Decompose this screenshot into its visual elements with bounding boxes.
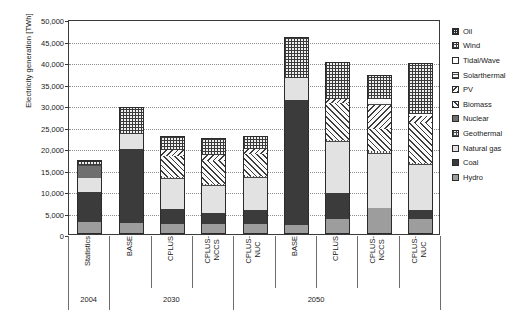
legend-label: Solarthermal	[463, 71, 506, 80]
group-separator	[68, 288, 69, 310]
y-tick-label: 25,000	[41, 124, 64, 133]
legend-label: Natural gas	[463, 144, 501, 153]
legend-item-solarthermal[interactable]: Solarthermal	[452, 68, 526, 83]
category-label: CPLUS	[316, 236, 357, 288]
bar-stack[interactable]	[77, 160, 102, 234]
bar-stack[interactable]	[284, 37, 309, 234]
bar-segment-natgas	[408, 165, 433, 210]
category-label: Statistics	[68, 236, 109, 288]
category-label-text: BASE	[291, 236, 300, 256]
legend-label: Coal	[463, 158, 478, 167]
legend-swatch-nuclear-icon	[452, 115, 459, 122]
bar-segment-coal	[77, 192, 102, 222]
category-label: CPLUS- NUC	[399, 236, 440, 288]
bar-segment-natgas	[325, 142, 350, 193]
legend-label: Tidal/Wave	[463, 56, 500, 65]
bar-segment-hydro	[367, 208, 392, 234]
legend: OilWindTidal/WaveSolarthermalPVBiomassNu…	[452, 24, 526, 185]
legend-swatch-hydro-icon	[452, 174, 459, 181]
bar-segment-pv	[367, 105, 392, 129]
group-label-2050: 2050	[233, 288, 398, 310]
bar-segment-coal	[160, 209, 185, 224]
bar-segment-wind	[408, 63, 433, 114]
group-separator	[109, 288, 110, 310]
legend-swatch-coal-icon	[452, 159, 459, 166]
bar-segment-hydro	[284, 225, 309, 234]
legend-item-geothermal[interactable]: Geothermal	[452, 126, 526, 141]
bar-segment-wind	[119, 107, 144, 133]
y-tick-label: 15,000	[41, 167, 64, 176]
category-label-text: CPLUS	[332, 236, 341, 261]
legend-item-hydro[interactable]: Hydro	[452, 170, 526, 185]
y-tick-label: 35,000	[41, 81, 64, 90]
bar-segment-wind	[243, 136, 268, 148]
legend-swatch-oil-icon	[452, 28, 459, 35]
legend-item-wind[interactable]: Wind	[452, 39, 526, 54]
legend-item-coal[interactable]: Coal	[452, 155, 526, 170]
legend-swatch-biomass-icon	[452, 101, 459, 108]
bar-segment-hydro	[119, 223, 144, 234]
bar-segment-nuclear	[77, 166, 102, 178]
bar-segment-natgas	[119, 134, 144, 149]
bar-stack[interactable]	[367, 75, 392, 234]
category-separator	[275, 236, 276, 288]
bar-stack[interactable]	[243, 136, 268, 234]
category-separator	[233, 236, 234, 288]
legend-label: PV	[463, 85, 473, 94]
bar-segment-wind	[367, 75, 392, 99]
bar-segment-coal	[201, 213, 226, 224]
group-label-2004: 2004	[68, 288, 109, 310]
bar-segment-natgas	[201, 186, 226, 213]
bar-segment-hydro	[160, 224, 185, 234]
legend-item-nuclear[interactable]: Nuclear	[452, 112, 526, 127]
category-label: CPLUS- NCCS	[192, 236, 233, 288]
legend-swatch-solarthermal-icon	[452, 72, 459, 79]
category-label: BASE	[275, 236, 316, 288]
group-axis: 200420302050	[68, 288, 440, 310]
y-tick-label: 45,000	[41, 38, 64, 47]
legend-swatch-tidal-icon	[452, 57, 459, 64]
category-label-text: CPLUS	[167, 236, 176, 261]
bars-layer	[69, 21, 439, 234]
bar-stack[interactable]	[201, 138, 226, 234]
legend-swatch-geothermal-icon	[452, 130, 459, 137]
bar-stack[interactable]	[408, 63, 433, 234]
category-separator	[151, 236, 152, 288]
category-separator	[109, 236, 110, 288]
legend-item-pv[interactable]: PV	[452, 82, 526, 97]
bar-segment-wind	[160, 136, 185, 150]
stacked-bar-chart: Electricity generation [TWh] 05,00010,00…	[0, 0, 526, 315]
category-label-text: CPLUS- NCCS	[204, 236, 221, 264]
bar-stack[interactable]	[325, 62, 350, 234]
bar-stack[interactable]	[160, 136, 185, 234]
y-tick-label: 30,000	[41, 103, 64, 112]
category-label-text: Statistics	[84, 236, 93, 266]
legend-label: Biomass	[463, 100, 492, 109]
bar-segment-hydro	[243, 224, 268, 234]
category-label-text: CPLUS- NCCS	[369, 236, 386, 264]
category-separator	[316, 236, 317, 288]
category-separator	[440, 236, 441, 288]
legend-item-oil[interactable]: Oil	[452, 24, 526, 39]
bar-segment-wind	[201, 138, 226, 155]
category-label-text: BASE	[126, 236, 135, 256]
legend-label: Wind	[463, 41, 480, 50]
y-tick-label: 0	[60, 232, 64, 241]
legend-label: Oil	[463, 27, 472, 36]
legend-swatch-wind-icon	[452, 42, 459, 49]
legend-item-natgas[interactable]: Natural gas	[452, 141, 526, 156]
legend-label: Nuclear	[463, 114, 489, 123]
bar-segment-biomass	[408, 123, 433, 163]
bar-segment-natgas	[160, 179, 185, 209]
bar-segment-coal	[243, 210, 268, 224]
group-label-2030: 2030	[109, 288, 233, 310]
legend-item-biomass[interactable]: Biomass	[452, 97, 526, 112]
legend-item-tidal[interactable]: Tidal/Wave	[452, 53, 526, 68]
bar-stack[interactable]	[119, 107, 144, 234]
category-label-text: CPLUS- NUC	[245, 236, 262, 264]
category-label: CPLUS	[151, 236, 192, 288]
bar-segment-biomass	[325, 103, 350, 140]
legend-swatch-pv-icon	[452, 86, 459, 93]
bar-segment-natgas	[77, 178, 102, 193]
y-tick-label: 50,000	[41, 17, 64, 26]
